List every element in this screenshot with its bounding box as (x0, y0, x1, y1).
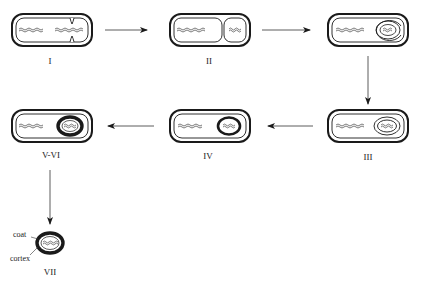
stage-iv-cell (170, 110, 250, 142)
stage-ii-cell (170, 14, 250, 46)
stage-vii-spore (37, 233, 63, 253)
stage-v-vi-label: V-VI (42, 150, 60, 160)
stage-iii-cell (328, 110, 408, 142)
cortex-leader-line (30, 247, 38, 255)
stage-v-vi-cell (12, 110, 92, 142)
stage-i-label: I (49, 56, 52, 66)
cortex-label: cortex (10, 254, 30, 263)
stage-ii-label: II (206, 56, 212, 66)
coat-label: coat (13, 230, 27, 239)
engulfment-cell (328, 14, 408, 46)
sporulation-diagram: I II (0, 0, 421, 286)
stage-iii-label: III (364, 152, 373, 162)
stage-vii-label: VII (44, 267, 57, 277)
stage-iv-label: IV (203, 151, 213, 161)
stage-i-cell (12, 14, 92, 46)
